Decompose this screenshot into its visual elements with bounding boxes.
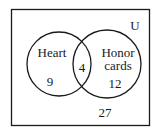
honor-only-count: 12 [105,77,125,90]
intersection-count: 4 [74,61,90,74]
universe-label: U [128,19,142,32]
honor-set-label-line2: cards [98,59,138,72]
heart-only-count: 9 [40,75,60,88]
heart-set-label: Heart [34,46,70,59]
outside-count: 27 [93,106,117,119]
